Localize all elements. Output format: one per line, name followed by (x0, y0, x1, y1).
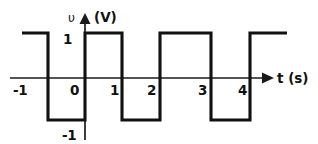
y-tick-label-positive-one: 1 (63, 31, 72, 47)
x-axis-title: t (s) (277, 70, 309, 86)
y-axis-unit-label: (V) (94, 9, 117, 25)
graph-canvas: υ (V) 1 -1 t (s) -1 0 1 2 3 4 (0, 0, 318, 144)
y-axis-symbol: υ (68, 11, 75, 25)
x-tick-label-one: 1 (110, 82, 119, 98)
y-tick-label-negative-one: -1 (62, 127, 76, 143)
square-wave-figure: υ (V) 1 -1 t (s) -1 0 1 2 3 4 (0, 0, 318, 144)
x-tick-label-four: 4 (238, 82, 247, 98)
x-tick-label-two: 2 (147, 82, 156, 98)
y-axis-arrowhead-icon (80, 13, 91, 24)
x-tick-label-three: 3 (198, 82, 207, 98)
x-tick-label-minus-one: -1 (13, 82, 27, 98)
square-wave-trace (22, 33, 287, 120)
x-axis-arrowhead-icon (262, 73, 274, 84)
x-tick-label-zero: 0 (70, 82, 79, 98)
